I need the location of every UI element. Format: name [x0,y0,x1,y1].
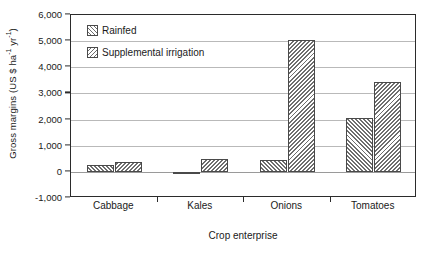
y-tick-label: 0 [8,165,62,176]
gridline [71,93,415,94]
plot-area: Rainfed Supplemental irrigation [70,14,416,197]
gridline [71,172,415,173]
bar-tomatoes-rainfed [346,118,373,172]
y-axis-title-exponent-1: -1 [5,49,12,55]
bar-kales-rainfed [173,172,200,175]
x-tick-label-kales: Kales [155,200,245,211]
x-tick-label-cabbage: Cabbage [68,200,158,211]
legend-item-supplemental-irrigation: Supplemental irrigation [87,44,204,61]
bar-kales-supplemental-irrigation [201,159,228,172]
legend-label-rainfed: Rainfed [102,25,136,36]
x-tick-label-onions: Onions [241,200,331,211]
chart-figure: Gross margins (US $ ha-1 yr-1) -1,00001,… [0,0,437,253]
y-tick-label: 2,000 [8,113,62,124]
y-tick-label: 3,000 [8,87,62,98]
y-tick-label: -1,000 [8,192,62,203]
y-tick-label: 4,000 [8,61,62,72]
x-axis-title: Crop enterprise [70,230,416,241]
bar-cabbage-supplemental-irrigation [115,162,142,172]
legend: Rainfed Supplemental irrigation [87,22,204,66]
bar-cabbage-rainfed [87,165,114,172]
y-axis-title-suffix: ) [7,28,18,31]
y-tick-label: 1,000 [8,139,62,150]
bar-tomatoes-supplemental-irrigation [374,82,401,172]
bar-onions-supplemental-irrigation [288,40,315,172]
y-tick-label: 5,000 [8,35,62,46]
x-tick-label-tomatoes: Tomatoes [328,200,418,211]
legend-label-supplemental-irrigation: Supplemental irrigation [102,47,204,58]
legend-swatch-supplemental-irrigation-icon [87,47,98,58]
bar-onions-rainfed [260,160,287,172]
legend-swatch-rainfed-icon [87,25,98,36]
y-tick-label: 6,000 [8,9,62,20]
gridline [71,67,415,68]
legend-item-rainfed: Rainfed [87,22,204,39]
